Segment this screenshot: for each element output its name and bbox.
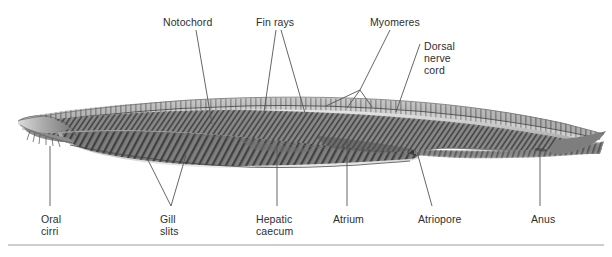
label-atrium: Atrium	[333, 213, 364, 225]
label-atriopore: Atriopore	[418, 213, 462, 225]
label-oral-cirri-line1: Oral	[41, 213, 61, 225]
label-myomeres: Myomeres	[370, 16, 420, 28]
anatomy-illustration	[0, 0, 612, 257]
label-anus: Anus	[531, 213, 555, 225]
label-oral-cirri-line2: cirri	[41, 225, 58, 237]
label-fin-rays: Fin rays	[256, 16, 294, 28]
label-dorsal-nerve-cord-line3: cord	[424, 64, 445, 76]
label-notochord: Notochord	[163, 16, 212, 28]
label-gill-slits-line2: slits	[160, 225, 179, 237]
label-dorsal-nerve-cord-line2: nerve	[424, 52, 451, 64]
label-dorsal-nerve-cord-line1: Dorsal	[424, 40, 455, 52]
label-hepatic-caecum-line2: caecum	[256, 225, 293, 237]
label-hepatic-caecum-line1: Hepatic	[256, 213, 292, 225]
lancelet-anatomy-figure: Notochord Fin rays Myomeres Dorsal nerve…	[0, 0, 612, 257]
label-gill-slits-line1: Gill	[160, 213, 176, 225]
